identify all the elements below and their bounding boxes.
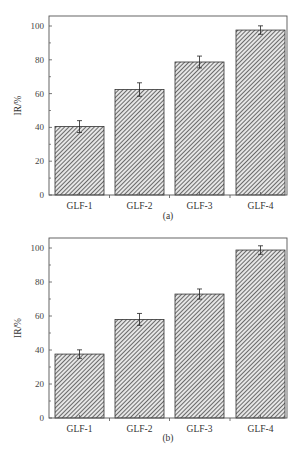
y-tick-label: 100: [31, 243, 45, 253]
x-tick-label: GLF-3: [187, 201, 213, 211]
x-tick-label: GLF-2: [127, 201, 153, 211]
y-axis-label: IR/%: [13, 318, 23, 338]
x-tick-label: GLF-4: [248, 201, 274, 211]
y-tick-label: 40: [35, 345, 45, 355]
figure: GLF-1GLF-2GLF-3GLF-4020406080100IR/%(a) …: [0, 0, 306, 461]
bar-glf-1: [55, 127, 104, 195]
x-tick-label: GLF-3: [187, 424, 213, 434]
y-tick-label: 0: [40, 413, 45, 423]
y-tick-label: 80: [35, 55, 45, 65]
panel-caption: (b): [162, 433, 173, 444]
panel-caption: (a): [163, 211, 174, 222]
chart-panel-b: GLF-1GLF-2GLF-3GLF-4020406080100IR/%(b): [13, 238, 287, 444]
bar-glf-2: [115, 319, 164, 418]
y-tick-label: 80: [35, 277, 45, 287]
x-tick-label: GLF-2: [127, 424, 153, 434]
y-tick-label: 100: [31, 21, 45, 31]
y-tick-label: 60: [35, 311, 45, 321]
bar-glf-2: [115, 90, 164, 195]
chart-panel-a: GLF-1GLF-2GLF-3GLF-4020406080100IR/%(a): [13, 16, 287, 222]
y-tick-label: 40: [35, 122, 45, 132]
bar-glf-3: [175, 62, 224, 195]
bar-glf-1: [55, 354, 104, 418]
bar-glf-4: [236, 30, 285, 195]
x-tick-label: GLF-1: [67, 424, 93, 434]
y-tick-label: 60: [35, 89, 45, 99]
bar-glf-3: [175, 294, 224, 418]
x-tick-label: GLF-4: [248, 424, 274, 434]
x-tick-label: GLF-1: [67, 201, 93, 211]
y-axis-label: IR/%: [13, 95, 23, 115]
y-tick-label: 20: [35, 156, 45, 166]
bar-glf-4: [236, 250, 285, 418]
y-tick-label: 20: [35, 379, 45, 389]
y-tick-label: 0: [40, 190, 45, 200]
